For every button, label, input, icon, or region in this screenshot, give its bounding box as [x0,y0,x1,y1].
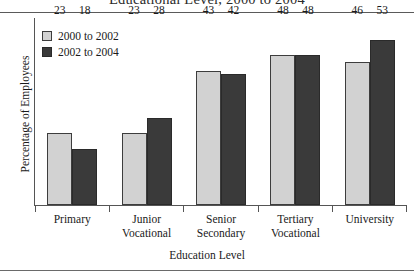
bar-pair: 48 [270,18,295,205]
bar-series2[interactable]: 48 [295,55,320,205]
bar-group: 46 53 [333,18,407,205]
x-axis-label: Education Level [0,249,414,261]
bar-pair: 53 [370,18,395,205]
bar-series2[interactable]: 42 [221,74,246,205]
category-label-line1: Senior [184,212,258,226]
bar-value-label: 48 [277,5,289,17]
bar-group: 43 42 [184,18,258,205]
legend-label-series2: 2002 to 2004 [58,46,119,58]
bar-value-label: 18 [79,5,91,17]
bar-series1[interactable]: 48 [270,55,295,205]
bar-series2[interactable]: 18 [72,149,97,205]
category-label-line1: Tertiary [258,212,332,226]
bar-series1[interactable]: 23 [47,133,72,205]
bar-pair: 42 [221,18,246,205]
bar-series1[interactable]: 43 [196,71,221,205]
legend-item-series1: 2000 to 2002 [42,28,119,44]
legend-label-series1: 2000 to 2002 [58,30,119,42]
y-axis-label: Percentage of Employees [19,29,31,199]
category-label-junior-vocational: Junior Vocational [109,212,183,240]
category-label-tertiary-vocational: Tertiary Vocational [258,212,332,240]
bar-value-label: 42 [228,5,240,17]
category-label-line1: Junior [109,212,183,226]
bar-pair: 23 [122,18,147,205]
legend-swatch-dark-square-icon [42,47,52,57]
bar-value-label: 23 [128,5,140,17]
category-label-line2: Vocational [258,226,332,240]
category-label-senior-secondary: Senior Secondary [184,212,258,240]
category-label-line2: Vocational [109,226,183,240]
bar-pair: 48 [295,18,320,205]
bar-pair: 28 [147,18,172,205]
category-label-line2: Secondary [184,226,258,240]
bar-value-label: 48 [302,5,314,17]
category-label-line1: Primary [35,212,109,226]
bar-group: 23 28 [109,18,183,205]
chart-legend: 2000 to 2002 2002 to 2004 [42,28,119,60]
bar-series1[interactable]: 46 [345,62,370,205]
bar-pair: 46 [345,18,370,205]
bar-series2[interactable]: 53 [370,40,395,205]
bar-value-label: 23 [54,5,66,17]
bar-value-label: 53 [377,5,389,17]
bar-value-label: 28 [153,5,165,17]
category-label-university: University [333,212,407,240]
bar-group: 48 48 [258,18,332,205]
category-label-primary: Primary [35,212,109,240]
x-axis-category-labels: Primary Junior Vocational Senior Seconda… [35,212,407,240]
category-label-line1: University [333,212,407,226]
legend-item-series2: 2002 to 2004 [42,44,119,60]
bar-pair: 43 [196,18,221,205]
bar-series1[interactable]: 23 [122,133,147,205]
bar-series2[interactable]: 28 [147,118,172,205]
bar-value-label: 43 [203,5,215,17]
bottom-divider-rule [0,270,414,271]
legend-swatch-light-square-icon [42,31,52,41]
bar-value-label: 46 [352,5,364,17]
